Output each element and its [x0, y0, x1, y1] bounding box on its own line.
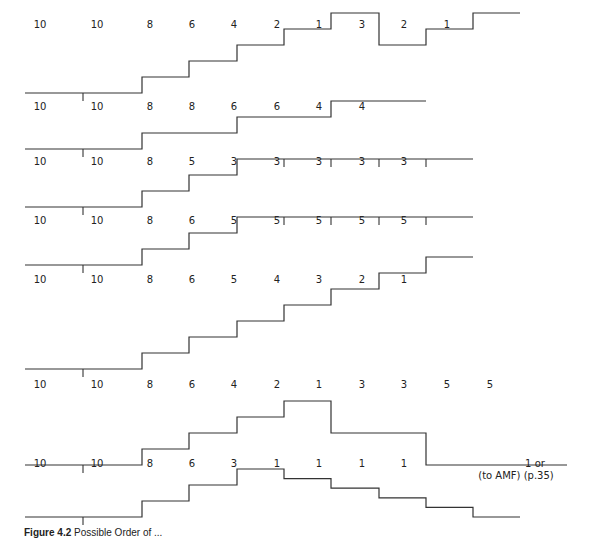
step-label: 3	[359, 379, 365, 390]
step-label: 10	[91, 379, 104, 390]
figure-caption: Figure 4.2 Possible Order of ...	[24, 527, 162, 538]
step-label: 6	[189, 19, 195, 30]
step-label: 4	[359, 101, 365, 112]
step-label: 6	[189, 274, 195, 285]
step-row: 1010864213355	[25, 379, 567, 473]
step-label: 5	[444, 379, 450, 390]
step-label: 3	[231, 458, 237, 469]
step-label: 1	[274, 458, 280, 469]
step-label: 3	[401, 379, 407, 390]
step-label: 2	[401, 19, 407, 30]
step-label: 10	[34, 458, 47, 469]
step-label: 4	[274, 274, 280, 285]
step-label: 10	[91, 101, 104, 112]
step-label: 8	[147, 274, 153, 285]
step-label: 10	[34, 274, 47, 285]
step-label: 10	[34, 215, 47, 226]
step-label: 5	[189, 156, 195, 167]
step-label: 2	[274, 379, 280, 390]
step-label: 4	[231, 19, 237, 30]
step-label: 1	[401, 458, 407, 469]
step-label: 8	[189, 101, 195, 112]
final-note-line1: 1 or	[525, 458, 546, 469]
step-row: 10108654321	[25, 257, 473, 377]
step-label: 5	[231, 274, 237, 285]
step-label: 10	[34, 19, 47, 30]
step-label: 3	[274, 156, 280, 167]
step-row: 10108655555	[25, 215, 473, 273]
step-label: 8	[147, 379, 153, 390]
step-label: 10	[34, 379, 47, 390]
step-line	[25, 401, 567, 465]
step-label: 10	[34, 156, 47, 167]
step-row: 1010886644	[25, 101, 426, 157]
step-label: 10	[91, 458, 104, 469]
step-label: 2	[359, 274, 365, 285]
step-line	[25, 469, 520, 517]
step-label: 3	[316, 156, 322, 167]
step-label: 10	[34, 101, 47, 112]
step-label: 10	[91, 156, 104, 167]
step-label: 6	[231, 101, 237, 112]
step-label: 1	[444, 19, 450, 30]
step-label: 3	[316, 274, 322, 285]
step-row: 101086421321	[25, 13, 520, 101]
step-label: 1	[316, 19, 322, 30]
step-label: 3	[359, 156, 365, 167]
step-label: 6	[189, 458, 195, 469]
step-label: 6	[274, 101, 280, 112]
step-label: 1	[316, 379, 322, 390]
step-label: 5	[487, 379, 493, 390]
step-label: 3	[231, 156, 237, 167]
step-label: 10	[91, 274, 104, 285]
step-label: 1	[401, 274, 407, 285]
step-label: 1	[316, 458, 322, 469]
step-line	[25, 101, 426, 149]
step-label: 8	[147, 19, 153, 30]
step-label: 8	[147, 101, 153, 112]
step-label: 6	[189, 379, 195, 390]
step-label: 10	[91, 19, 104, 30]
step-label: 8	[147, 156, 153, 167]
step-label: 3	[401, 156, 407, 167]
step-label: 1	[359, 458, 365, 469]
final-note-line2: (to AMF) (p.35)	[478, 470, 554, 481]
step-label: 10	[91, 215, 104, 226]
step-label: 8	[147, 458, 153, 469]
step-label: 8	[147, 215, 153, 226]
step-label: 2	[274, 19, 280, 30]
step-label: 6	[189, 215, 195, 226]
step-label: 3	[359, 19, 365, 30]
caption-label: Figure 4.2	[24, 527, 71, 538]
step-label: 4	[231, 379, 237, 390]
step-label: 5	[231, 215, 237, 226]
step-row: 101086311111 or(to AMF) (p.35)	[25, 458, 554, 525]
step-label: 4	[316, 101, 322, 112]
caption-text: Possible Order of ...	[74, 527, 162, 538]
step-row: 10108533333	[25, 156, 473, 215]
